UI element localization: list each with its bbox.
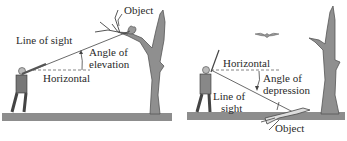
person-with-rifle-icon [12, 64, 46, 112]
object-label: Object [275, 123, 304, 134]
angle-label-line1: Angle of [89, 47, 128, 58]
horizontal-label: Horizontal [43, 73, 90, 84]
object-pointer [277, 102, 279, 110]
line-of-sight-label: Line of sight [16, 35, 72, 46]
line-of-sight-label-line2: sight [221, 103, 242, 114]
elevation-illustration [0, 0, 175, 141]
horizontal-label: Horizontal [223, 58, 270, 69]
bird-icon [128, 26, 136, 34]
object-label: Object [124, 5, 153, 16]
tree-icon [309, 6, 340, 114]
depression-diagram: Horizontal Angle of depression Line of s… [175, 0, 347, 141]
arrowhead-icon [255, 86, 259, 91]
line-of-sight-label-line1: Line of [213, 91, 245, 102]
object-pointer [118, 14, 122, 26]
ground [2, 113, 172, 121]
angle-label-line2: elevation [89, 59, 129, 70]
angle-arc [257, 71, 260, 88]
angle-label-line1: Angle of [263, 73, 302, 84]
arrowhead-icon [79, 50, 83, 54]
elevation-diagram: Object Line of sight Angle of elevation … [0, 0, 175, 141]
angle-label-line2: depression [263, 85, 310, 96]
depression-illustration [175, 0, 347, 141]
angle-arc [81, 53, 82, 70]
person-icon [197, 50, 219, 112]
bird-icon [255, 33, 279, 37]
